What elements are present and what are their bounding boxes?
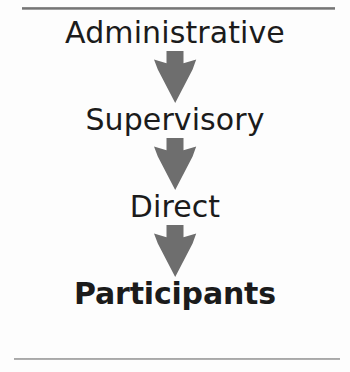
flow-node-administrative: Administrative: [0, 14, 350, 52]
top-divider-rule: [22, 7, 335, 10]
flow-stack: Administrative Supervisory Direct Partic…: [0, 14, 350, 354]
down-arrow-icon-2: [153, 138, 197, 190]
flow-node-participants: Participants: [0, 275, 350, 313]
down-arrow-icon-3: [153, 225, 197, 277]
flow-diagram-figure: Administrative Supervisory Direct Partic…: [0, 0, 350, 372]
flow-node-supervisory: Supervisory: [0, 101, 350, 139]
flow-node-direct: Direct: [0, 188, 350, 226]
bottom-divider-rule: [14, 358, 340, 360]
down-arrow-icon-1: [153, 51, 197, 103]
